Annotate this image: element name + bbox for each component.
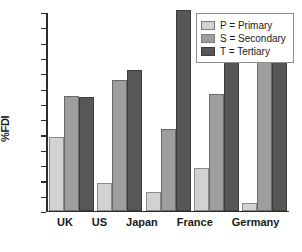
bar-us-p (97, 183, 112, 211)
y-tick-mark (41, 105, 46, 106)
bar-france-s (209, 94, 224, 210)
legend-item-tertiary: T = Tertiary (201, 45, 288, 57)
y-tick-mark (41, 90, 46, 91)
y-tick-mark (41, 59, 46, 60)
y-tick-mark (41, 197, 46, 198)
bar-us-t (127, 70, 142, 211)
x-axis-labels: UKUSJapanFranceGermany (48, 216, 290, 228)
bar-france-t (224, 62, 239, 210)
y-tick-mark (41, 166, 46, 167)
bar-group (49, 13, 94, 211)
x-axis-label-japan: Japan (126, 216, 158, 228)
x-axis-line (46, 211, 289, 213)
bar-germany-s (257, 62, 272, 210)
y-tick-mark (41, 181, 46, 182)
bar-japan-s (161, 129, 176, 210)
legend-label-tertiary: T = Tertiary (220, 46, 270, 57)
bar-group (146, 13, 191, 211)
bar-uk-t (79, 97, 94, 210)
y-tick-mark (41, 120, 46, 121)
x-axis-label-france: France (177, 216, 213, 228)
y-tick-mark (41, 212, 46, 213)
legend: P = Primary S = Secondary T = Tertiary (196, 13, 294, 63)
y-tick-mark (41, 28, 46, 29)
y-tick-mark (41, 13, 46, 14)
y-tick-mark (41, 151, 46, 152)
bar-group (97, 13, 142, 211)
bar-japan-t (176, 10, 191, 211)
x-axis-label-us: US (92, 216, 107, 228)
y-tick-mark (41, 44, 46, 45)
bar-chart: %FDI 05101520253035404550556065 UKUSJapa… (0, 0, 302, 252)
y-axis-title: %FDI (0, 36, 11, 96)
bar-japan-p (146, 192, 161, 210)
bar-germany-t (272, 62, 287, 210)
y-tick-mark (41, 135, 46, 136)
legend-swatch-primary-icon (201, 21, 215, 30)
bar-uk-p (49, 137, 64, 210)
x-axis-label-uk: UK (57, 216, 73, 228)
legend-item-secondary: S = Secondary (201, 32, 288, 44)
y-tick-mark (41, 74, 46, 75)
legend-label-primary: P = Primary (220, 20, 272, 31)
bar-germany-p (242, 203, 257, 211)
bar-uk-s (64, 96, 79, 211)
bar-us-s (112, 80, 127, 210)
x-axis-label-germany: Germany (232, 216, 280, 228)
legend-swatch-tertiary-icon (201, 47, 215, 56)
legend-swatch-secondary-icon (201, 34, 215, 43)
legend-item-primary: P = Primary (201, 19, 288, 31)
legend-label-secondary: S = Secondary (220, 33, 286, 44)
bar-france-p (194, 168, 209, 211)
